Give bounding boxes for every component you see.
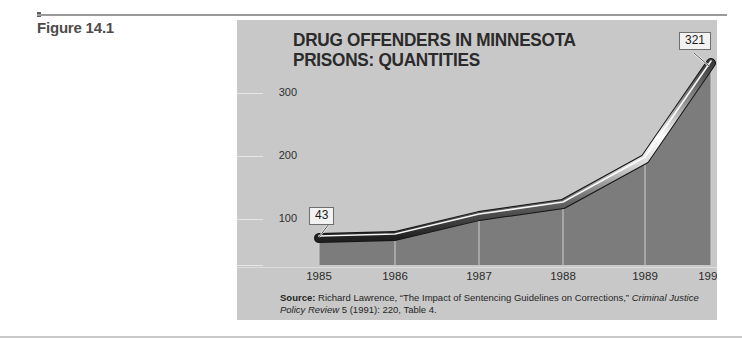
y-axis-label-300: 300 — [263, 86, 297, 98]
figure-panel: DRUG OFFENDERS IN MINNESOTA PRISONS: QUA… — [237, 20, 717, 320]
figure-label: Figure 14.1 — [37, 19, 114, 36]
source-text-1: Richard Lawrence, “The Impact of Sentenc… — [315, 292, 631, 303]
y-gridline-200 — [237, 156, 263, 157]
area-chart-svg — [297, 20, 717, 268]
y-gridline-100 — [237, 219, 263, 220]
y-tick-200: 200 — [237, 156, 297, 157]
x-axis-label-1989: 1989 — [622, 270, 668, 282]
y-gridline-300 — [237, 93, 263, 94]
x-axis-label-1985: 1985 — [296, 270, 342, 282]
y-axis-label-200: 200 — [263, 149, 297, 161]
x-axis: 1985 1986 1987 1988 1989 1990 — [297, 268, 717, 290]
y-gridline-zero — [237, 265, 263, 266]
x-axis-label-1987: 1987 — [456, 270, 502, 282]
x-axis-label-1986: 1986 — [372, 270, 418, 282]
y-tick-zero — [237, 265, 297, 266]
x-axis-label-1990: 1990 — [688, 270, 717, 282]
chart-plot-area: DRUG OFFENDERS IN MINNESOTA PRISONS: QUA… — [237, 20, 717, 268]
data-callout-1990: 321 — [679, 32, 711, 50]
source-text-2: 5 (1991): 220, Table 4. — [339, 304, 437, 315]
data-callout-1985: 43 — [309, 207, 334, 225]
figure-top-rule — [37, 14, 727, 16]
chart-area-series — [297, 20, 717, 268]
x-axis-label-1988: 1988 — [540, 270, 586, 282]
y-tick-100: 100 — [237, 219, 297, 220]
source-prefix: Source: — [280, 292, 315, 303]
y-axis-label-100: 100 — [263, 212, 297, 224]
source-note: Source: Richard Lawrence, “The Impact of… — [280, 292, 700, 315]
y-tick-300: 300 — [237, 93, 297, 94]
